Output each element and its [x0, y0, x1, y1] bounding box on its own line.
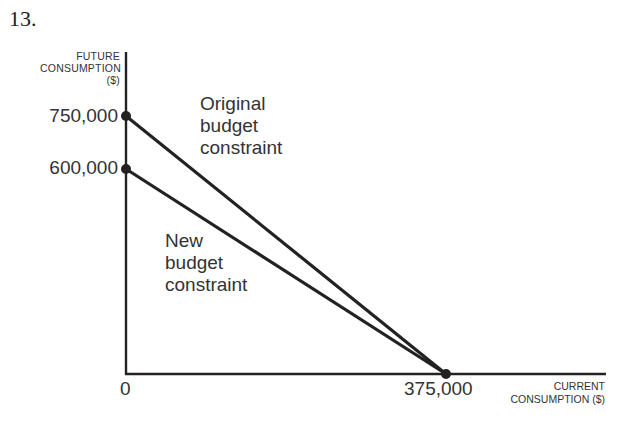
original-budget-label: Original budget constraint [200, 93, 282, 159]
annotation-line: budget [165, 252, 247, 274]
annotation-line: constraint [165, 274, 247, 296]
y-axis-title-line: CONSUMPTION [40, 62, 120, 74]
y-tick-750000: 750,000 [49, 105, 118, 127]
annotation-line: Original [200, 93, 282, 115]
y-tick-600000: 600,000 [49, 157, 118, 179]
annotation-line: New [165, 230, 247, 252]
annotation-line: constraint [200, 137, 282, 159]
point-600000 [121, 164, 131, 174]
x-tick-375000: 375,000 [404, 378, 473, 400]
x-axis-title: CURRENT CONSUMPTION ($) [480, 380, 605, 406]
y-axis-title-line: FUTURE [40, 50, 120, 62]
x-tick-0: 0 [120, 378, 131, 400]
annotation-line: budget [200, 115, 282, 137]
new-budget-label: New budget constraint [165, 230, 247, 296]
point-750000 [121, 111, 131, 121]
y-axis-title-line: ($) [40, 74, 120, 86]
y-axis-title: FUTURE CONSUMPTION ($) [40, 50, 120, 86]
